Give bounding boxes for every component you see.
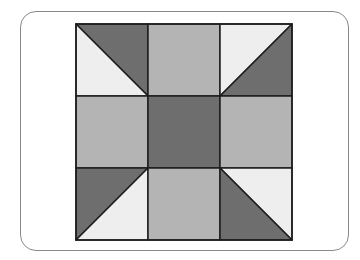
quilt-block: [75, 23, 293, 241]
quilt-cell-solid: [220, 96, 292, 168]
quilt-svg: [75, 23, 293, 241]
quilt-cell-solid: [148, 96, 220, 168]
quilt-cell-solid: [76, 96, 148, 168]
quilt-cell-solid: [148, 168, 220, 240]
quilt-cell-solid: [148, 24, 220, 96]
